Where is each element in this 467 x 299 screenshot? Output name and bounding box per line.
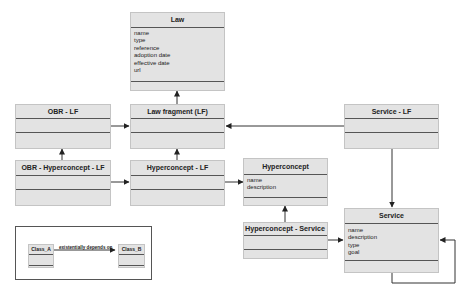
legend-class-a: Class_A — [28, 244, 54, 268]
attribute: url — [134, 67, 221, 74]
attribute: effective date — [134, 60, 221, 67]
class-hyperconcept-lf-attributes — [131, 176, 224, 190]
class-law-fragment-name: Law fragment (LF) — [131, 105, 224, 119]
legend-class-b: Class_B — [118, 244, 145, 268]
class-hyperconcept-lf-name: Hyperconcept - LF — [131, 161, 224, 176]
legend-class-b-name: Class_B — [119, 245, 144, 255]
legend-box: Class_A existentially depends on Class_B — [15, 226, 152, 280]
class-hyperconcept-service-attributes — [244, 236, 327, 250]
attribute: type — [134, 37, 221, 44]
class-hyperconcept-lf[interactable]: Hyperconcept - LF — [130, 160, 225, 206]
legend-relation-label: existentially depends on — [59, 245, 112, 250]
class-obr-lf-attributes — [16, 119, 110, 133]
class-hyperconcept-name: Hyperconcept — [244, 159, 327, 175]
class-service-lf-name: Service - LF — [345, 105, 438, 119]
class-service[interactable]: Service name description type goal — [344, 208, 439, 273]
class-service-lf[interactable]: Service - LF — [344, 104, 439, 149]
attribute: adoption date — [134, 52, 221, 59]
class-service-lf-attributes — [345, 119, 438, 133]
class-law-name: Law — [131, 13, 224, 28]
class-law[interactable]: Law name type reference adoption date ef… — [130, 12, 225, 91]
class-obr-hyperconcept-lf[interactable]: OBR - Hyperconcept - LF — [15, 160, 111, 206]
class-hyperconcept-service-name: Hyperconcept - Service — [244, 223, 327, 236]
class-obr-hyperconcept-lf-name: OBR - Hyperconcept - LF — [16, 161, 110, 176]
attribute: name — [134, 30, 221, 37]
attribute: name — [348, 227, 435, 234]
legend-class-a-attributes — [29, 255, 53, 266]
class-law-fragment-attributes — [131, 119, 224, 133]
class-service-name: Service — [345, 209, 438, 224]
class-obr-hyperconcept-lf-attributes — [16, 176, 110, 190]
class-hyperconcept-attributes: name description — [244, 175, 327, 198]
attribute: type — [348, 242, 435, 249]
attribute: name — [247, 177, 324, 184]
legend-class-b-attributes — [119, 255, 144, 266]
attribute: reference — [134, 45, 221, 52]
attribute: description — [247, 184, 324, 191]
attribute: description — [348, 234, 435, 241]
class-law-attributes: name type reference adoption date effect… — [131, 28, 224, 82]
class-obr-lf[interactable]: OBR - LF — [15, 104, 111, 149]
class-hyperconcept[interactable]: Hyperconcept name description — [243, 158, 328, 206]
legend-class-a-name: Class_A — [29, 245, 53, 255]
attribute: goal — [348, 249, 435, 256]
class-law-fragment[interactable]: Law fragment (LF) — [130, 104, 225, 149]
class-obr-lf-name: OBR - LF — [16, 105, 110, 119]
class-service-attributes: name description type goal — [345, 224, 438, 261]
class-hyperconcept-service[interactable]: Hyperconcept - Service — [243, 222, 328, 259]
